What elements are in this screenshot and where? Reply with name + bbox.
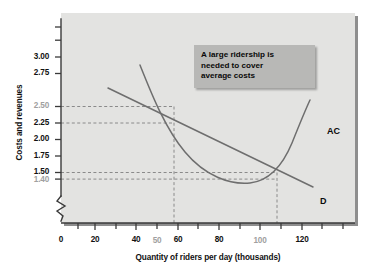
plot-graphics (0, 0, 372, 273)
x-tick-label-100: 100 (247, 236, 273, 245)
x-axis-ticks (78, 223, 343, 230)
callout-line-1: A large ridership is (201, 50, 309, 61)
annotation-callout: A large ridership is needed to cover ave… (194, 45, 315, 88)
y-tick-label-225: 2.25 (23, 118, 49, 127)
y-axis-title: Costs and revenues (15, 63, 24, 183)
y-tick-label-300: 3.00 (23, 52, 49, 61)
reference-lines (61, 107, 277, 224)
y-axis-break-zigzag (57, 196, 65, 221)
callout-line-3: average costs (201, 71, 309, 82)
average-cost-curve-label: AC (327, 126, 340, 136)
y-axis-ticks (55, 27, 61, 179)
x-tick-label-120: 120 (289, 235, 315, 244)
y-tick-label-140: 1.40 (23, 175, 49, 184)
y-tick-label-200: 2.00 (23, 134, 49, 143)
economics-chart-figure: 3.00 2.75 2.50 2.25 2.00 1.75 1.50 1.40 … (0, 0, 372, 273)
demand-curve-label: D (320, 196, 327, 206)
callout-line-2: needed to cover (201, 61, 309, 72)
x-tick-label-0: 0 (48, 235, 74, 244)
y-tick-label-175: 1.75 (23, 151, 49, 160)
x-tick-label-80: 80 (206, 235, 232, 244)
y-tick-label-275: 2.75 (23, 68, 49, 77)
y-tick-label-250: 2.50 (23, 101, 49, 110)
x-tick-label-60: 60 (165, 235, 191, 244)
y-axis (57, 19, 65, 221)
x-axis-title: Quantity of riders per day (thousands) (61, 253, 355, 262)
x-tick-label-20: 20 (82, 235, 108, 244)
